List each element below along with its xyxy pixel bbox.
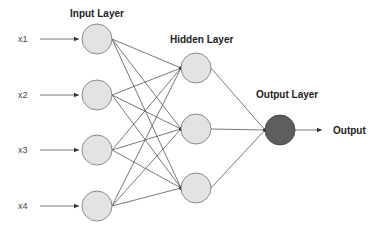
output-label: Output (333, 125, 366, 136)
hidden-node-3 (181, 173, 211, 203)
input-node-1 (82, 24, 112, 54)
input-arrows (40, 39, 79, 206)
input-hidden-connections (112, 39, 181, 206)
input-node-2 (82, 80, 112, 110)
hidden-layer (181, 53, 211, 203)
input-label-x4: x4 (18, 201, 28, 211)
input-node-3 (82, 135, 112, 165)
output-layer (265, 115, 295, 145)
hidden-layer-title: Hidden Layer (170, 34, 233, 45)
neural-network-diagram: Input Layer Hidden Layer Output Layer x1… (0, 0, 381, 230)
hidden-node-2 (181, 114, 211, 144)
output-layer-title: Output Layer (256, 89, 318, 100)
input-label-x1: x1 (18, 34, 28, 44)
input-layer-title: Input Layer (70, 8, 124, 19)
output-node (265, 115, 295, 145)
input-label-x3: x3 (18, 145, 28, 155)
input-layer (82, 24, 112, 221)
input-label-x2: x2 (18, 90, 28, 100)
hidden-output-connections (211, 68, 265, 188)
input-node-4 (82, 191, 112, 221)
hidden-node-1 (181, 53, 211, 83)
